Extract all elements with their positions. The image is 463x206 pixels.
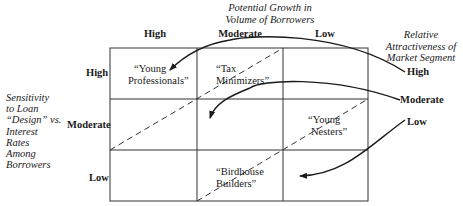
segment-label-line: Minimizers” [216, 75, 269, 87]
left-axis-title: Sensitivity to Loan “Design” vs. Interes… [6, 92, 66, 170]
segment-young-nesters: “Young Nesters” [308, 114, 347, 137]
left-axis-title-line: Among [6, 148, 66, 159]
row-header-low: Low [89, 172, 109, 184]
right-legend-title-line: Relative [378, 29, 463, 41]
legend-level-moderate: Moderate [400, 94, 444, 106]
top-axis-title-line: Volume of Borrowers [195, 14, 345, 26]
row-header-high: High [86, 67, 108, 79]
segment-label-line: “Tax [216, 63, 269, 75]
right-legend-title: Relative Attractiveness of Market Segmen… [378, 29, 463, 64]
segment-birdhouse-builders: “Birdhouse Builders” [216, 166, 264, 189]
column-header-low: Low [300, 28, 350, 40]
left-axis-title-line: Borrowers [6, 159, 66, 170]
legend-level-high: High [407, 66, 429, 78]
left-axis-title-line: to Loan [6, 103, 66, 114]
top-axis-title: Potential Growth in Volume of Borrowers [195, 2, 345, 25]
segment-label-line: Builders” [216, 178, 264, 190]
column-header-moderate: Moderate [205, 28, 275, 40]
segment-label-line: Nesters” [308, 126, 347, 138]
segment-label-line: “Young [128, 63, 189, 75]
segment-label-line: “Young [308, 114, 347, 126]
row-header-moderate: Moderate [67, 119, 111, 131]
left-axis-title-line: Rates [6, 137, 66, 148]
right-legend-title-line: Market Segment [378, 52, 463, 64]
left-axis-title-line: Sensitivity [6, 92, 66, 103]
segment-young-professionals: “Young Professionals” [128, 63, 189, 86]
column-header-high: High [125, 28, 185, 40]
attractiveness-arrows [170, 37, 405, 176]
legend-level-low: Low [407, 116, 427, 128]
segment-label-line: “Birdhouse [216, 166, 264, 178]
left-axis-title-line: “Design” vs. [6, 114, 66, 125]
segment-label-line: Professionals” [128, 75, 189, 87]
right-legend-title-line: Attractiveness of [378, 41, 463, 53]
left-axis-title-line: Interest [6, 126, 66, 137]
top-axis-title-line: Potential Growth in [195, 2, 345, 14]
segment-tax-minimizers: “Tax Minimizers” [216, 63, 269, 86]
